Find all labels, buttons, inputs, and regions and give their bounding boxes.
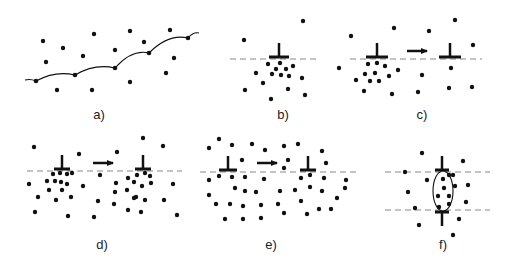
- solute-atom-dot: [228, 202, 232, 206]
- solute-atom-dot: [441, 177, 445, 181]
- solute-atom-dot: [128, 29, 132, 33]
- solute-atom-dot: [44, 60, 48, 64]
- solute-atom-dot: [125, 188, 129, 192]
- solute-atom-dot: [55, 88, 59, 92]
- solute-atom-dot: [92, 215, 96, 219]
- dislocation-tee-symbol: [54, 155, 70, 169]
- panel-label-d: d): [96, 237, 108, 252]
- solute-atom-dot: [214, 202, 218, 206]
- solute-atom-dot: [270, 72, 274, 76]
- solute-atom-dot: [54, 198, 58, 202]
- solute-atom-dot: [299, 199, 303, 203]
- solute-atom-dot: [396, 68, 400, 72]
- solute-atom-dot: [223, 217, 227, 221]
- solute-atom-dot: [259, 216, 263, 220]
- solute-atom-dot: [217, 174, 221, 178]
- dislocation-tee-symbol: [135, 155, 151, 169]
- dislocation-tee-symbol: [269, 43, 289, 57]
- panels-group: a)b)c)d)e)f): [25, 18, 490, 252]
- solute-atom-dot: [140, 184, 144, 188]
- solute-atom-dot: [175, 213, 179, 217]
- solute-atom-dot: [368, 79, 372, 83]
- solute-atom-dot: [301, 19, 305, 23]
- solute-atom-dot: [261, 81, 265, 85]
- solute-atom-dot: [293, 188, 297, 192]
- solute-atom-dot: [233, 186, 237, 190]
- solute-atom-dot: [139, 210, 143, 214]
- dislocation-tee-symbol: [435, 212, 449, 226]
- solute-atom-dot: [126, 176, 130, 180]
- solute-atom-dot: [27, 182, 31, 186]
- solute-atom-dot: [70, 171, 74, 175]
- solute-atom-dot: [243, 175, 247, 179]
- solute-atom-dot: [77, 152, 81, 156]
- solute-atom-dot: [263, 148, 267, 152]
- solute-atom-dot: [243, 189, 247, 193]
- solute-atom-dot: [164, 71, 168, 75]
- solute-atom-dot: [69, 195, 73, 199]
- solute-atom-dot: [81, 184, 85, 188]
- solute-atom-dot: [464, 200, 468, 204]
- solute-atom-dot: [420, 151, 424, 155]
- solute-atom-dot: [65, 172, 69, 176]
- solute-atom-dot: [337, 66, 341, 70]
- solute-atom-dot: [320, 149, 324, 153]
- panel-d: d): [27, 136, 182, 252]
- solute-atom-dot: [207, 178, 211, 182]
- solute-atom-dot: [51, 172, 55, 176]
- solute-atom-dot: [284, 67, 288, 71]
- solute-atom-dot: [278, 189, 282, 193]
- solute-atom-dot: [362, 89, 366, 93]
- solute-atom-dot: [447, 173, 451, 177]
- solute-atom-dot: [266, 62, 270, 66]
- panel-f: f): [385, 151, 490, 252]
- solute-atom-dot: [274, 67, 278, 71]
- solute-atom-dot: [451, 233, 455, 237]
- solute-atom-dot: [413, 206, 417, 210]
- pinning-node-dot: [113, 66, 118, 71]
- solute-atom-dot: [115, 150, 119, 154]
- solute-atom-dot: [241, 204, 245, 208]
- solute-atom-dot: [243, 88, 247, 92]
- solute-atom-dot: [81, 54, 85, 58]
- solute-atom-dot: [303, 93, 307, 97]
- solute-atom-dot: [427, 29, 431, 33]
- solute-atom-dot: [279, 73, 283, 77]
- solute-atom-dot: [317, 207, 321, 211]
- solute-atom-dot: [162, 198, 166, 202]
- solute-atom-dot: [262, 177, 266, 181]
- solute-atom-dot: [392, 26, 396, 30]
- solute-atom-dot: [113, 48, 117, 52]
- solute-atom-dot: [168, 28, 172, 32]
- solute-atom-dot: [60, 188, 64, 192]
- solute-atom-dot: [453, 184, 457, 188]
- solute-atom-dot: [447, 86, 451, 90]
- solute-atom-dot: [141, 136, 145, 140]
- solute-atom-dot: [291, 64, 295, 68]
- solute-atom-dot: [387, 74, 391, 78]
- solute-atom-dot: [375, 61, 379, 65]
- solute-atom-dot: [466, 183, 470, 187]
- panel-e: e): [200, 137, 358, 252]
- solute-atom-dot: [296, 142, 300, 146]
- solute-atom-dot: [269, 97, 273, 101]
- panel-label-c: c): [417, 107, 428, 122]
- solute-atom-dot: [161, 144, 165, 148]
- solute-atom-dot: [230, 175, 234, 179]
- solute-atom-dot: [33, 210, 37, 214]
- solute-atom-dot: [437, 205, 441, 209]
- solute-atom-dot: [217, 137, 221, 141]
- solute-atom-dot: [143, 171, 147, 175]
- solute-atom-dot: [436, 194, 440, 198]
- solute-atom-dot: [344, 178, 348, 182]
- solute-atom-dot: [366, 62, 370, 66]
- solute-atom-dot: [451, 173, 455, 177]
- solute-atom-dot: [471, 43, 475, 47]
- solute-atom-dot: [453, 18, 457, 22]
- panel-b: b): [230, 19, 319, 122]
- solute-atom-dot: [470, 85, 474, 89]
- solute-atom-dot: [58, 171, 62, 175]
- solute-atom-dot: [383, 64, 387, 68]
- solute-atom-dot: [242, 38, 246, 42]
- solute-atom-dot: [126, 208, 130, 212]
